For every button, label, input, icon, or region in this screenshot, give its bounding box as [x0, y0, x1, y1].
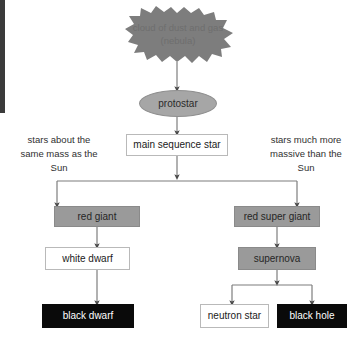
node-white-dwarf-label: white dwarf: [62, 253, 113, 265]
node-black-hole-label: black hole: [289, 310, 334, 322]
node-black-hole[interactable]: black hole: [277, 304, 347, 328]
node-supernova[interactable]: supernova: [238, 247, 316, 270]
node-white-dwarf[interactable]: white dwarf: [45, 247, 130, 270]
left-edge-bar: [0, 0, 5, 113]
annotation-right-branch: stars much more massive than the Sun: [262, 133, 350, 174]
node-red-giant-label: red giant: [78, 211, 117, 223]
diagram-canvas: cloud of dust and gas (nebula) protostar…: [0, 0, 353, 340]
node-red-giant[interactable]: red giant: [54, 206, 140, 227]
annotation-left-branch: stars about the same mass as the Sun: [16, 133, 102, 174]
node-black-dwarf[interactable]: black dwarf: [42, 304, 134, 328]
node-nebula-label: cloud of dust and gas (nebula): [131, 22, 225, 48]
node-red-super-giant-label: red super giant: [244, 211, 311, 223]
node-supernova-label: supernova: [254, 253, 301, 265]
node-main-sequence-star[interactable]: main sequence star: [126, 134, 228, 156]
node-protostar[interactable]: protostar: [139, 90, 217, 117]
node-neutron-star-label: neutron star: [208, 310, 261, 322]
node-red-super-giant[interactable]: red super giant: [234, 206, 320, 227]
node-main-sequence-star-label: main sequence star: [133, 139, 220, 151]
node-nebula[interactable]: cloud of dust and gas (nebula): [117, 5, 239, 65]
node-protostar-label: protostar: [158, 98, 197, 109]
node-neutron-star[interactable]: neutron star: [200, 304, 269, 328]
node-black-dwarf-label: black dwarf: [63, 310, 114, 322]
